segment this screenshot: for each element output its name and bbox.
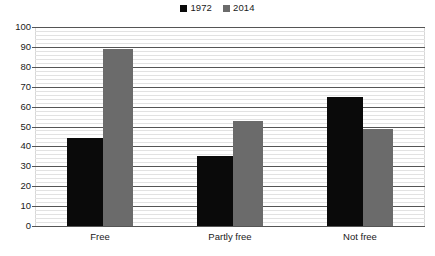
y-tick-label: 30: [1, 161, 31, 171]
bar-group: [35, 27, 165, 226]
y-tick-label: 20: [1, 181, 31, 191]
x-tick-label: Not free: [310, 231, 410, 242]
y-tick-label: 10: [1, 201, 31, 211]
legend-swatch-2014: [223, 5, 230, 12]
bar-free-1972[interactable]: [67, 138, 103, 226]
bar-partly-free-1972[interactable]: [197, 156, 233, 226]
x-tick-label: Partly free: [180, 231, 280, 242]
y-tick-label: 40: [1, 141, 31, 151]
y-tick-label: 0: [1, 221, 31, 231]
y-axis: 0102030405060708090100: [0, 27, 31, 227]
bar-not-free-2014[interactable]: [363, 129, 393, 227]
y-tick-label: 80: [1, 62, 31, 72]
y-tick-label: 50: [1, 122, 31, 132]
y-tick-label: 100: [1, 22, 31, 32]
bars-layer: [35, 27, 425, 227]
legend-label-2014: 2014: [233, 3, 255, 13]
y-tick-label: 70: [1, 82, 31, 92]
bar-group: [165, 27, 295, 226]
x-axis: FreePartly freeNot free: [35, 231, 425, 251]
legend-label-1972: 1972: [190, 3, 212, 13]
bar-group: [295, 27, 425, 226]
y-tick-label: 60: [1, 102, 31, 112]
chart-legend: 1972 2014: [0, 1, 435, 15]
legend-swatch-1972: [180, 5, 187, 12]
bar-free-2014[interactable]: [103, 49, 133, 226]
bar-not-free-1972[interactable]: [327, 97, 363, 226]
bar-partly-free-2014[interactable]: [233, 121, 263, 226]
bar-chart: 1972 2014 0102030405060708090100 FreePar…: [0, 0, 435, 256]
x-tick-label: Free: [50, 231, 150, 242]
legend-item-2014[interactable]: 2014: [223, 3, 255, 13]
y-tick-label: 90: [1, 42, 31, 52]
legend-item-1972[interactable]: 1972: [180, 3, 212, 13]
